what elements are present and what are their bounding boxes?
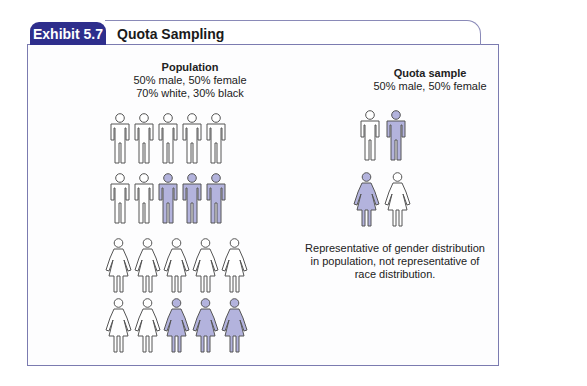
female-figure-white-icon [133, 298, 162, 354]
female-figure-white-icon [191, 238, 220, 294]
population-race-split: 70% white, 30% black [100, 87, 280, 100]
header-corner-curve [440, 20, 481, 45]
population-row-male-1 [108, 113, 228, 165]
note-line-3: race distribution. [280, 268, 510, 281]
note-line-2: in population, not representative of [280, 255, 510, 268]
exhibit-tab: Exhibit 5.7 [30, 22, 106, 45]
female-figure-black-icon [220, 298, 249, 354]
population-label: Population 50% male, 50% female 70% whit… [100, 61, 280, 100]
header-top-border [105, 20, 465, 21]
male-figure-white-icon [132, 113, 156, 165]
male-figure-black-icon [156, 173, 180, 225]
female-figure-white-icon [162, 238, 191, 294]
population-heading: Population [100, 61, 280, 74]
male-figure-white-icon [132, 173, 156, 225]
population-row-female-2 [104, 298, 249, 354]
representation-note: Representative of gender distribution in… [280, 242, 510, 281]
male-figure-white-icon [108, 113, 132, 165]
note-line-1: Representative of gender distribution [280, 242, 510, 255]
male-figure-black-icon [384, 110, 408, 162]
quota-sample-heading: Quota sample [340, 67, 520, 80]
exhibit-title: Quota Sampling [117, 22, 224, 46]
population-row-male-2 [108, 173, 228, 225]
quota-row-female [352, 172, 414, 228]
female-figure-black-icon [162, 298, 191, 354]
population-row-female-1 [104, 238, 249, 294]
male-figure-white-icon [156, 113, 180, 165]
male-figure-white-icon [180, 113, 204, 165]
male-figure-black-icon [204, 173, 228, 225]
female-figure-white-icon [383, 172, 412, 228]
female-figure-black-icon [191, 298, 220, 354]
male-figure-black-icon [180, 173, 204, 225]
female-figure-white-icon [104, 298, 133, 354]
female-figure-white-icon [133, 238, 162, 294]
male-figure-white-icon [108, 173, 132, 225]
female-figure-white-icon [220, 238, 249, 294]
quota-sample-gender-split: 50% male, 50% female [340, 80, 520, 93]
quota-sample-label: Quota sample 50% male, 50% female [340, 67, 520, 93]
male-figure-white-icon [358, 110, 382, 162]
female-figure-black-icon [352, 172, 381, 228]
male-figure-white-icon [204, 113, 228, 165]
quota-row-male [358, 110, 410, 162]
population-gender-split: 50% male, 50% female [100, 74, 280, 87]
female-figure-white-icon [104, 238, 133, 294]
